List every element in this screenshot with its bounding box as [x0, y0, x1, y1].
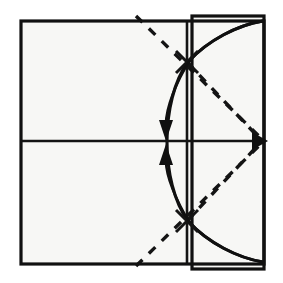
paper-faces-group [21, 16, 264, 269]
origami-diagram-svg: Origami fold step diagram [0, 0, 283, 283]
origami-diagram-root: Origami fold step diagram [0, 0, 283, 283]
